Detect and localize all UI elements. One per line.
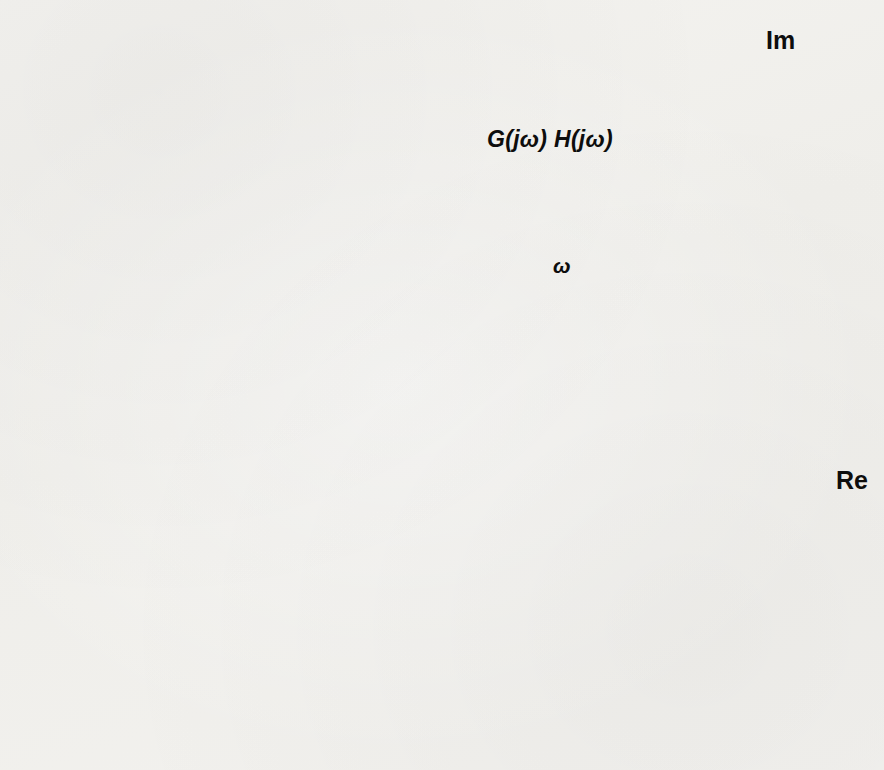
transfer-function-label: G(jω) H(jω) — [487, 126, 613, 153]
figure-canvas: Im Re G(jω) H(jω) ω — [0, 0, 884, 770]
omega-direction-label: ω — [553, 254, 571, 278]
imaginary-axis-label: Im — [766, 26, 795, 55]
real-axis-label: Re — [836, 466, 868, 495]
nyquist-plot — [0, 0, 884, 770]
